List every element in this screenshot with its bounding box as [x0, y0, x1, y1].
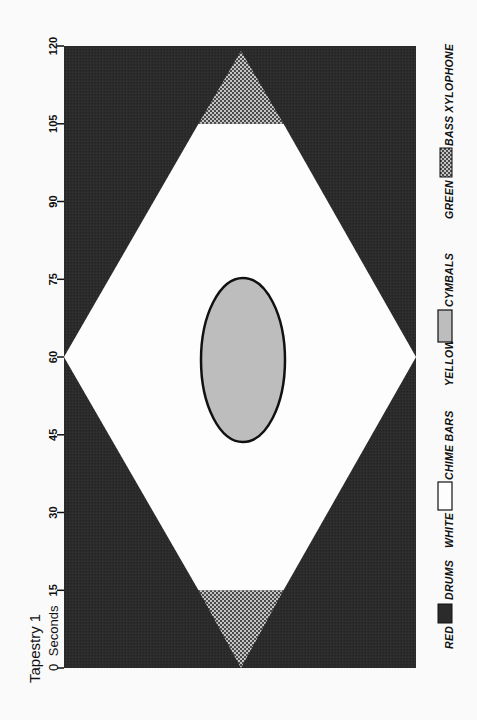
tick-label-75: 75	[47, 273, 59, 285]
cymbals-region	[201, 278, 285, 442]
legend-instrument-cymbals: CYMBALS	[443, 253, 455, 307]
tick-label-90: 90	[47, 195, 59, 207]
legend-item-bass-xylophone: GREEN BASS XYLOPHONE	[440, 43, 455, 219]
axis-unit-label: Seconds	[46, 605, 61, 656]
legend-instrument-drums: DRUMS	[443, 560, 455, 600]
tick-label-105: 105	[47, 115, 59, 133]
legend-swatch-green	[440, 148, 452, 177]
graphic-score: Tapestry 1 0 Seconds 15 30 45 60 75 90 1…	[0, 0, 477, 720]
tick-label-30: 30	[47, 506, 59, 518]
legend-color-white: WHITE	[443, 512, 455, 548]
score-plot	[64, 46, 416, 668]
tick-label-45: 45	[47, 429, 59, 441]
tick-label-15: 15	[47, 584, 59, 596]
legend-item-drums: RED DRUMS	[438, 560, 455, 649]
legend-color-yellow: YELLOW	[443, 338, 455, 386]
axis-origin-label: 0 Seconds	[46, 605, 61, 671]
legend-swatch-white	[438, 482, 452, 510]
legend-instrument-chime-bars: CHIME BARS	[443, 410, 455, 480]
legend: RED DRUMS WHITE CHIME BARS YELLOW CYMBAL…	[438, 43, 455, 649]
legend-item-chime-bars: WHITE CHIME BARS	[438, 410, 455, 548]
score-title: Tapestry 1	[26, 614, 43, 683]
tick-label-0: 0	[46, 664, 61, 671]
legend-swatch-red	[438, 604, 452, 623]
legend-item-cymbals: YELLOW CYMBALS	[438, 253, 455, 386]
tick-label-120: 120	[47, 37, 59, 55]
legend-swatch-yellow	[438, 310, 452, 342]
legend-color-red: RED	[443, 626, 455, 649]
legend-color-green: GREEN	[443, 180, 455, 219]
tick-label-60: 60	[47, 351, 59, 363]
legend-instrument-bass-xylophone: BASS XYLOPHONE	[443, 43, 455, 146]
